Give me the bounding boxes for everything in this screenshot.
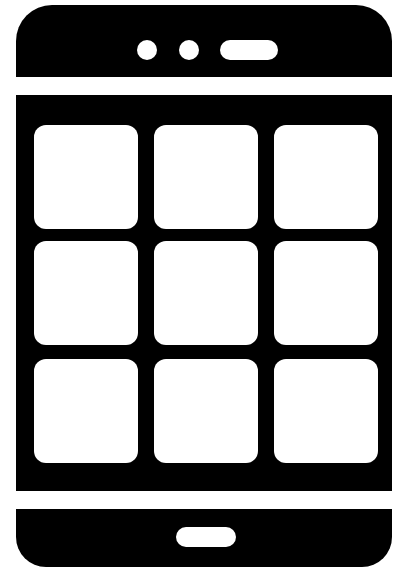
phone-screen bbox=[16, 95, 392, 491]
app-tile bbox=[154, 241, 258, 345]
app-tile bbox=[154, 359, 258, 463]
app-tile bbox=[154, 125, 258, 229]
app-tile bbox=[34, 241, 138, 345]
sensor-dot-icon bbox=[179, 40, 199, 60]
phone-top-bar bbox=[16, 5, 392, 77]
home-button-icon bbox=[176, 527, 236, 547]
phone-bottom-bar bbox=[16, 509, 392, 567]
speaker-slot-icon bbox=[220, 40, 278, 60]
app-tile bbox=[34, 125, 138, 229]
app-tile bbox=[274, 241, 378, 345]
app-tile bbox=[274, 359, 378, 463]
app-tile bbox=[274, 125, 378, 229]
camera-dot-icon bbox=[137, 40, 157, 60]
app-tile bbox=[34, 359, 138, 463]
